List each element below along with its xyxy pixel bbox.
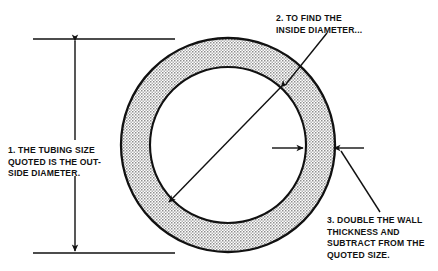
leader-wall-thickness bbox=[341, 151, 380, 212]
tubing-size-diagram: 1. THE TUBING SIZE QUOTED IS THE OUT- SI… bbox=[0, 0, 438, 271]
callout-outside-diameter: 1. THE TUBING SIZE QUOTED IS THE OUT- SI… bbox=[8, 145, 101, 180]
callout-wall-thickness: 3. DOUBLE THE WALL THICKNESS AND SUBTRAC… bbox=[327, 215, 425, 261]
tube-cross-section bbox=[118, 35, 340, 257]
callout-inside-diameter: 2. TO FIND THE INSIDE DIAMETER... bbox=[276, 13, 362, 36]
